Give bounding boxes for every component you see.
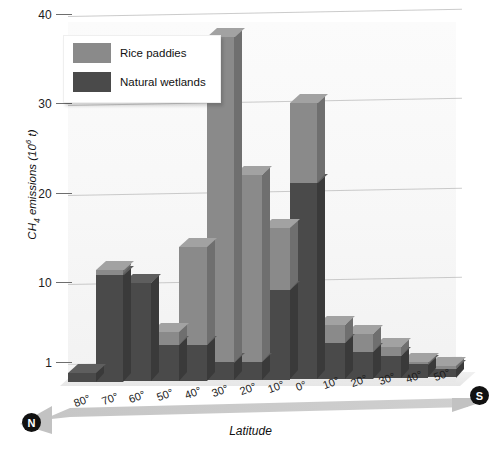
bar-column [234,379,262,380]
y-tick-label-40: 40 [18,8,52,22]
y-tick-mark-10 [56,282,72,283]
bar-segment-rice-paddies [96,270,124,274]
y-axis-title-sub: 4 [32,218,42,223]
x-axis-title: Latitude [0,424,501,438]
legend: Rice paddies Natural wetlands [63,35,221,103]
y-tick-mark-30 [56,103,72,104]
legend-item-natural-wetlands: Natural wetlands [73,71,206,93]
y-tick-mark-40 [56,14,72,15]
y-axis-title: CH4 emissions (106 t) [24,90,41,280]
methane-latitude-chart: 110203040 80°70°60°50°40°30°20°10°0°10°2… [0,0,501,456]
bar-segment-rice-paddies-face [96,270,124,274]
bar-column [179,380,207,381]
bar-column [151,380,179,381]
y-axis-title-sup: 6 [24,140,33,144]
bar-segment-natural-wetlands [68,373,96,382]
y-tick-mark-1 [56,362,72,363]
bar-column [96,381,124,382]
bar-segment-natural-wetlands-side [290,281,298,379]
legend-label-rice-paddies: Rice paddies [120,47,186,59]
y-axis-title-prefix: CH [26,223,38,240]
legend-label-natural-wetlands: Natural wetlands [120,76,206,88]
bar-column [123,380,151,381]
y-axis-title-mid: emissions (10 [26,144,38,218]
y-tick-label-1: 1 [18,356,52,370]
bar-segment-rice-paddies-side [262,166,270,362]
bar-segment-natural-wetlands-side [317,174,325,379]
south-badge: S [470,386,489,405]
bar-segment-rice-paddies-side [290,219,298,290]
bar-segment-natural-wetlands-side [123,266,131,382]
south-badge-label: S [476,390,483,402]
bar-column [207,379,235,380]
legend-swatch-natural-wetlands [73,72,111,92]
bar-column [68,381,96,382]
bar-segment-rice-paddies-side [234,28,242,363]
y-tick-mark-20 [56,193,72,194]
bar-segment-natural-wetlands-face [68,373,96,382]
legend-swatch-rice-paddies [73,43,111,63]
legend-item-rice-paddies: Rice paddies [73,42,186,64]
bar-segment-rice-paddies-side [317,94,325,183]
gridline-40 [68,9,462,17]
bar-segment-natural-wetlands-side [151,274,159,381]
bar-segment-rice-paddies-face [290,103,318,183]
bar-segment-rice-paddies [290,103,318,183]
y-axis-title-suffix: t) [26,129,38,139]
bar-segment-rice-paddies-side [207,238,215,345]
